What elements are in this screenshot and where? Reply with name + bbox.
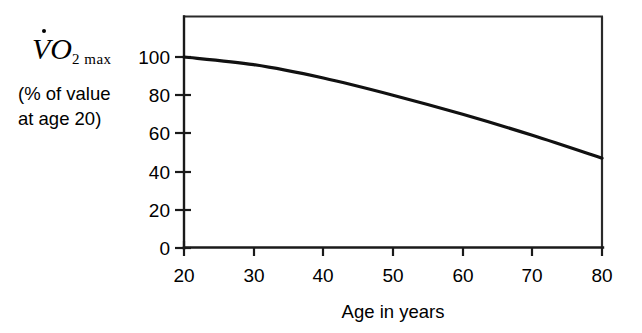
chart-figure: VO2 max (% of valueat age 20) 100 80 bbox=[0, 0, 642, 333]
plot-area: 100 80 60 40 20 0 20 30 40 bbox=[0, 0, 642, 333]
y-axis-tick-labels: 100 80 60 40 20 0 bbox=[138, 47, 170, 259]
x-tick-label-70: 70 bbox=[521, 265, 542, 286]
x-tick-label-80: 80 bbox=[591, 265, 612, 286]
x-tick-label-40: 40 bbox=[312, 265, 333, 286]
y-tick-label-0: 0 bbox=[159, 238, 170, 259]
y-tick-label-40: 40 bbox=[149, 162, 170, 183]
data-series-line bbox=[184, 57, 602, 158]
x-tick-label-30: 30 bbox=[243, 265, 264, 286]
y-tick-label-80: 80 bbox=[149, 85, 170, 106]
x-axis-tick-labels: 20 30 40 50 60 70 80 bbox=[173, 265, 612, 286]
y-tick-label-60: 60 bbox=[149, 123, 170, 144]
x-tick-label-60: 60 bbox=[452, 265, 473, 286]
x-tick-label-50: 50 bbox=[382, 265, 403, 286]
y-tick-label-100: 100 bbox=[138, 47, 170, 68]
y-tick-label-20: 20 bbox=[149, 200, 170, 221]
x-axis-title: Age in years bbox=[342, 301, 445, 322]
x-tick-label-20: 20 bbox=[173, 265, 194, 286]
